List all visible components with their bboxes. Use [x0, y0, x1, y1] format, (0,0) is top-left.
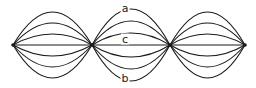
graph-edge — [170, 12, 245, 45]
graph-edge — [170, 45, 245, 56]
edge-label-b: b — [121, 73, 130, 84]
graph-edge — [92, 45, 170, 57]
graph-vertex — [243, 43, 247, 47]
graph-vertex — [168, 43, 172, 47]
diagram-canvas: a c b — [0, 0, 256, 88]
graph-edge — [92, 45, 170, 81]
graph-edge — [170, 45, 245, 78]
graph-edge — [92, 33, 170, 45]
edge-bundle-left — [13, 12, 92, 78]
graph-edge — [13, 45, 92, 78]
edge-label-a: a — [121, 3, 130, 14]
graph-edge — [92, 9, 170, 45]
edge-bundle-middle — [92, 9, 170, 81]
edge-label-c: c — [121, 34, 129, 45]
graph-vertex — [11, 43, 15, 47]
graph-edge — [170, 34, 245, 45]
graph-edge — [13, 12, 92, 45]
graph-edge — [13, 45, 92, 56]
edge-bundle-right — [170, 12, 245, 78]
graph-edge — [13, 34, 92, 45]
graph-vertex — [90, 43, 94, 47]
